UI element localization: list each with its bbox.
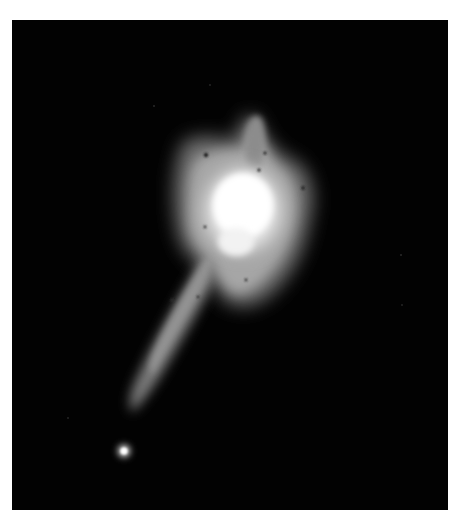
nebula-image [12,20,448,510]
nebula-core [195,158,291,262]
astronomical-image-frame [12,20,448,510]
star [115,442,133,460]
